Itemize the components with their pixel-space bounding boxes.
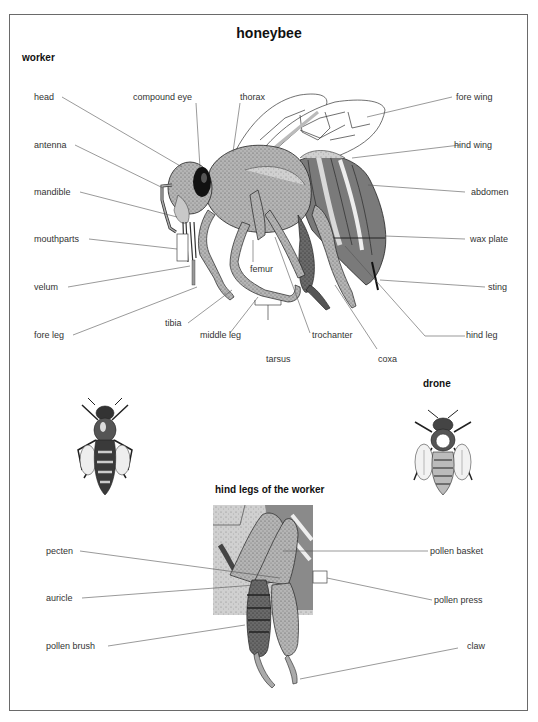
- label-trochanter: trochanter: [312, 330, 353, 340]
- label-pollen-basket: pollen basket: [430, 546, 483, 556]
- label-middle-leg: middle leg: [200, 330, 241, 340]
- label-abdomen: abdomen: [471, 187, 509, 197]
- label-femur: femur: [250, 264, 273, 274]
- label-pecten: pecten: [46, 546, 73, 556]
- label-compound-eye: compound eye: [133, 92, 192, 102]
- label-pollen-press: pollen press: [434, 595, 483, 605]
- label-hind-wing: hind wing: [454, 140, 492, 150]
- label-fore-leg: fore leg: [34, 330, 64, 340]
- label-coxa: coxa: [378, 354, 397, 364]
- label-thorax: thorax: [240, 92, 265, 102]
- label-sting: sting: [488, 282, 507, 292]
- label-fore-wing: fore wing: [456, 92, 493, 102]
- label-head: head: [34, 92, 54, 102]
- label-auricle: auricle: [46, 593, 73, 603]
- label-mouthparts: mouthparts: [34, 234, 79, 244]
- label-velum: velum: [34, 282, 58, 292]
- label-antenna: antenna: [34, 140, 67, 150]
- label-tarsus: tarsus: [266, 354, 291, 364]
- worker-top-view-illustration: [78, 398, 132, 495]
- label-mandible: mandible: [34, 187, 71, 197]
- hind-legs-illustration: [213, 505, 327, 688]
- drone-top-view-illustration: [414, 410, 472, 495]
- label-hind-leg: hind leg: [466, 330, 498, 340]
- label-wax-plate: wax plate: [470, 234, 508, 244]
- label-pollen-brush: pollen brush: [46, 641, 95, 651]
- label-claw: claw: [467, 641, 485, 651]
- worker-bee-illustration: [162, 94, 386, 320]
- label-tibia: tibia: [165, 318, 182, 328]
